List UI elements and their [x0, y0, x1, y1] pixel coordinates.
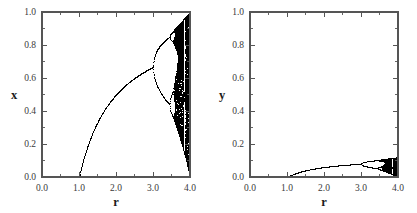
y-tick-label: 1.0 [232, 7, 244, 17]
x-tick-label: 1.0 [281, 183, 293, 193]
y-tick-label: 0.4 [24, 106, 36, 116]
x-tick-label: 0.0 [36, 183, 48, 193]
y-tick-label: 0.6 [24, 73, 36, 83]
y-tick-label: 0.6 [232, 73, 244, 83]
x-tick-label: 2.0 [110, 183, 122, 193]
x-tick-label: 0.0 [244, 183, 256, 193]
y-axis-label: x [11, 88, 18, 102]
data-points [288, 157, 398, 177]
axis-ticks [250, 12, 398, 177]
y-tick-label: 0.8 [24, 40, 36, 50]
y-tick-label: 0.0 [24, 172, 36, 182]
y-tick-label: 0.2 [232, 139, 244, 149]
x-tick-label: 1.0 [73, 183, 85, 193]
x-tick-label: 3.0 [355, 183, 367, 193]
x-tick-label: 2.0 [318, 183, 330, 193]
y-tick-label: 0.0 [232, 172, 244, 182]
y-tick-label: 1.0 [24, 7, 36, 17]
chart-panel-left: 0.01.02.03.04.00.00.20.40.60.81.0rx [0, 0, 209, 213]
x-axis-label: r [113, 195, 119, 209]
y-axis-label: y [219, 88, 226, 102]
x-tick-label: 4.0 [392, 183, 404, 193]
bifurcation-figure: 0.01.02.03.04.00.00.20.40.60.81.0rx 0.01… [0, 0, 417, 213]
y-tick-label: 0.8 [232, 40, 244, 50]
x-tick-label: 4.0 [184, 183, 196, 193]
x-axis-label: r [321, 195, 327, 209]
data-points [79, 13, 190, 177]
plot-frame [250, 12, 398, 177]
x-tick-label: 3.0 [147, 183, 159, 193]
y-tick-label: 0.2 [24, 139, 36, 149]
chart-panel-right: 0.01.02.03.04.00.00.20.40.60.81.0ry [208, 0, 417, 213]
y-tick-label: 0.4 [232, 106, 244, 116]
